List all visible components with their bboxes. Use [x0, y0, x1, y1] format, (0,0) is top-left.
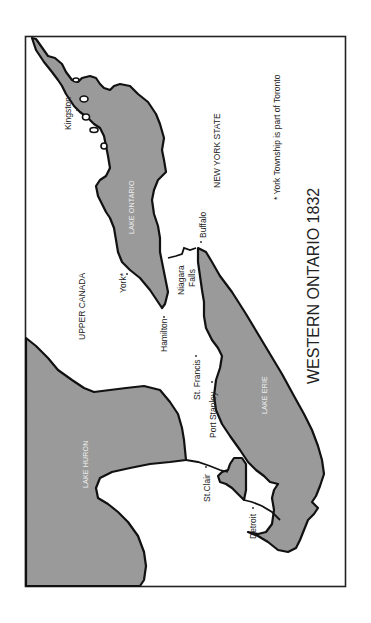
map-title: WESTERN ONTARIO 1832: [305, 188, 322, 384]
york-dot: [126, 273, 128, 275]
lake-huron-label: LAKE HURON: [82, 440, 89, 488]
kingston-label: Kingston: [63, 97, 73, 130]
detroit-dot: [252, 507, 254, 509]
hamilton-label: Hamilton: [159, 318, 169, 352]
falls-label: Falls: [187, 269, 197, 287]
island-4: [90, 128, 98, 133]
buffalo-dot: [200, 241, 202, 243]
map-of-western-ontario-1832: LAKE ONTARIO LAKE ERIE LAKE HURON UPPER …: [0, 0, 371, 623]
buffalo-label: Buffalo: [198, 211, 208, 238]
lake-erie-label: LAKE ERIE: [261, 376, 268, 414]
detroit-label: Detroit: [248, 513, 258, 539]
hamilton-dot: [163, 316, 165, 318]
port-stanley-label: Port Stanley: [208, 391, 218, 438]
st-francis-dot: [195, 355, 197, 357]
st-clair-dot: [205, 466, 207, 468]
york-label: York*: [118, 272, 128, 293]
footnote: * York Township is part of Toronto: [272, 74, 282, 200]
island-2: [80, 96, 88, 102]
st-francis-label: St. Francis: [192, 359, 202, 400]
port-stanley-dot: [211, 381, 213, 383]
island-1: [73, 78, 79, 82]
island-5: [101, 143, 107, 149]
island-3: [83, 114, 90, 120]
lake-ontario-label: LAKE ONTARIO: [128, 180, 135, 234]
niagara-label: Niagara: [176, 265, 186, 295]
kingston-dot: [76, 109, 78, 111]
st-clair-label: St.Clair: [202, 474, 212, 502]
upper-canada-label: UPPER CANADA: [77, 273, 87, 340]
new-york-state-label: NEW YORK STATE: [212, 113, 222, 188]
